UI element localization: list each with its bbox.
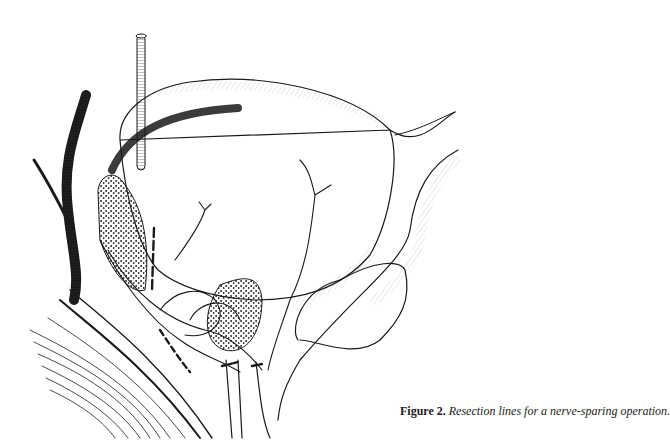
urethra bbox=[226, 360, 270, 438]
catheter-tube bbox=[112, 34, 238, 170]
figure-label: Figure 2. bbox=[400, 404, 446, 418]
figure-caption-text: Resection lines for a nerve-sparing oper… bbox=[446, 404, 670, 418]
figure-caption: Figure 2. Resection lines for a nerve-sp… bbox=[400, 404, 662, 419]
rectum bbox=[278, 150, 458, 420]
seminal-vesicle bbox=[98, 175, 262, 351]
iliac-vessel bbox=[34, 95, 86, 300]
